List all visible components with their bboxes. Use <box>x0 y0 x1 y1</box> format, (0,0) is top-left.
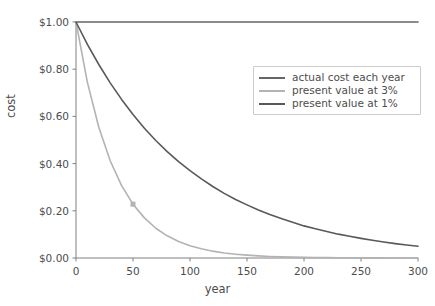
legend-item: present value at 1% <box>259 97 414 110</box>
y-tick-label: $0.20 <box>14 206 69 217</box>
y-tick-label: $1.00 <box>14 17 69 28</box>
y-tick-label: $0.40 <box>14 158 69 169</box>
y-tick-label: $0.00 <box>14 253 69 264</box>
chart-legend: actual cost each year present value at 3… <box>253 66 421 115</box>
x-tick-label: 50 <box>126 266 139 277</box>
data-markers <box>131 202 136 207</box>
y-tick-label: $0.60 <box>14 111 69 122</box>
legend-swatch-icon <box>259 77 285 79</box>
legend-swatch-icon <box>259 90 285 92</box>
x-tick-label: 200 <box>294 266 314 277</box>
legend-item-label: present value at 3% <box>292 85 398 96</box>
legend-item: present value at 3% <box>259 84 414 97</box>
legend-item: actual cost each year <box>259 71 414 84</box>
x-axis-title: year <box>0 284 435 296</box>
y-tick-label: $0.80 <box>14 64 69 75</box>
x-tick-label: 150 <box>237 266 257 277</box>
legend-item-label: present value at 1% <box>292 98 398 109</box>
data-point-marker <box>131 202 136 207</box>
y-axis-title: cost <box>6 94 18 118</box>
chart-figure: $0.00$0.20$0.40$0.60$0.80$1.00 050100150… <box>0 0 435 306</box>
x-tick-label: 0 <box>73 266 80 277</box>
x-tick-label: 300 <box>408 266 428 277</box>
legend-swatch-icon <box>259 103 285 105</box>
x-tick-label: 100 <box>180 266 200 277</box>
x-tick-label: 250 <box>351 266 371 277</box>
legend-item-label: actual cost each year <box>292 72 405 83</box>
